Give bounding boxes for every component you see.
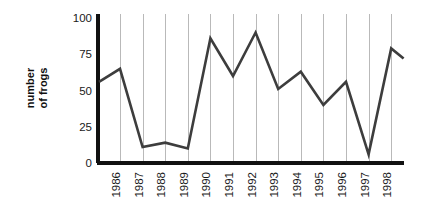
y-tick-label-75: 75 <box>79 48 92 60</box>
y-tick-label-50: 50 <box>79 85 92 97</box>
frog-population-line-chart: 0255075100 19861987198819891990199119921… <box>0 0 423 218</box>
y-tick-label-0: 0 <box>86 157 92 169</box>
x-tick-label-1987: 1987 <box>133 172 145 198</box>
y-axis-title-line-2: of frogs <box>37 68 49 109</box>
x-tick-label-1998: 1998 <box>381 172 393 198</box>
x-tick-label-1991: 1991 <box>223 172 235 198</box>
x-tick-label-1986: 1986 <box>110 172 122 198</box>
x-tick-label-1996: 1996 <box>336 172 348 198</box>
x-tick-label-1989: 1989 <box>178 172 190 198</box>
x-tick-label-1995: 1995 <box>313 172 325 198</box>
x-tick-label-1993: 1993 <box>268 172 280 198</box>
y-tick-label-25: 25 <box>79 121 92 133</box>
x-tick-label-1997: 1997 <box>359 172 371 198</box>
y-axis-title: number of frogs <box>24 67 49 108</box>
y-tick-label-100: 100 <box>73 12 92 24</box>
x-tick-label-1988: 1988 <box>155 172 167 198</box>
x-tick-label-1992: 1992 <box>246 172 258 198</box>
x-tick-label-1994: 1994 <box>291 171 303 197</box>
y-axis-title-line-1: number <box>24 67 36 108</box>
chart-canvas: 0255075100 19861987198819891990199119921… <box>0 0 423 218</box>
x-tick-label-1990: 1990 <box>200 172 212 198</box>
